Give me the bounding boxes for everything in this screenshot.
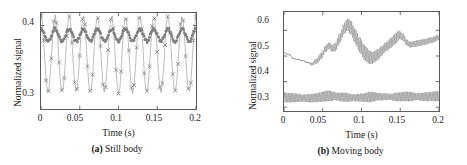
- panel-b-y-tick-0: 0.3: [241, 92, 269, 102]
- panel-b-caption-tag: (b): [317, 145, 329, 156]
- panel-a-x-tick-4: 0.2: [184, 113, 206, 123]
- panel-b-x-tick-3: 0.15: [383, 115, 411, 125]
- panel-b-plot-svg: [284, 12, 439, 111]
- panel-a-caption-text: Still body: [105, 143, 143, 154]
- figure-container: Normalized signal 0.3 0.4 0 0.05 0.1 0.1…: [0, 0, 467, 165]
- panel-a-x-tick-3: 0.15: [140, 113, 168, 123]
- panel-a-x-tick-0: 0: [31, 113, 49, 123]
- panel-moving-body: Normalized signal 0.3 0.4 0.5 0.6 0 0.05…: [234, 0, 467, 165]
- panel-a-caption: (a) Still body: [0, 143, 234, 154]
- panel-still-body: Normalized signal 0.3 0.4 0 0.05 0.1 0.1…: [0, 0, 234, 165]
- panel-b-x-tick-4: 0.2: [427, 115, 449, 125]
- panel-b-y-tick-2: 0.5: [241, 41, 269, 51]
- panel-b-y-tick-3: 0.6: [241, 15, 269, 25]
- panel-a-caption-tag: (a): [91, 143, 102, 154]
- panel-b-x-axis-label: Time (s): [283, 129, 440, 140]
- panel-b-caption: (b) Moving body: [234, 145, 467, 156]
- panel-a-x-tick-1: 0.05: [61, 113, 89, 123]
- panel-b-x-tick-2: 0.1: [348, 115, 370, 125]
- panel-b-y-tick-1: 0.4: [241, 66, 269, 76]
- panel-b-x-tick-0: 0: [274, 115, 292, 125]
- panel-a-y-tick-1: 0.4: [6, 17, 34, 27]
- panel-b-x-tick-1: 0.05: [304, 115, 332, 125]
- panel-a-x-axis-label: Time (s): [40, 127, 197, 138]
- panel-b-plot-area: [283, 11, 440, 112]
- panel-a-plot-area: [40, 12, 197, 110]
- panel-a-x-tick-2: 0.1: [105, 113, 127, 123]
- panel-b-caption-text: Moving body: [332, 145, 384, 156]
- panel-a-plot-svg: [41, 13, 196, 109]
- panel-a-y-tick-0: 0.3: [6, 88, 34, 98]
